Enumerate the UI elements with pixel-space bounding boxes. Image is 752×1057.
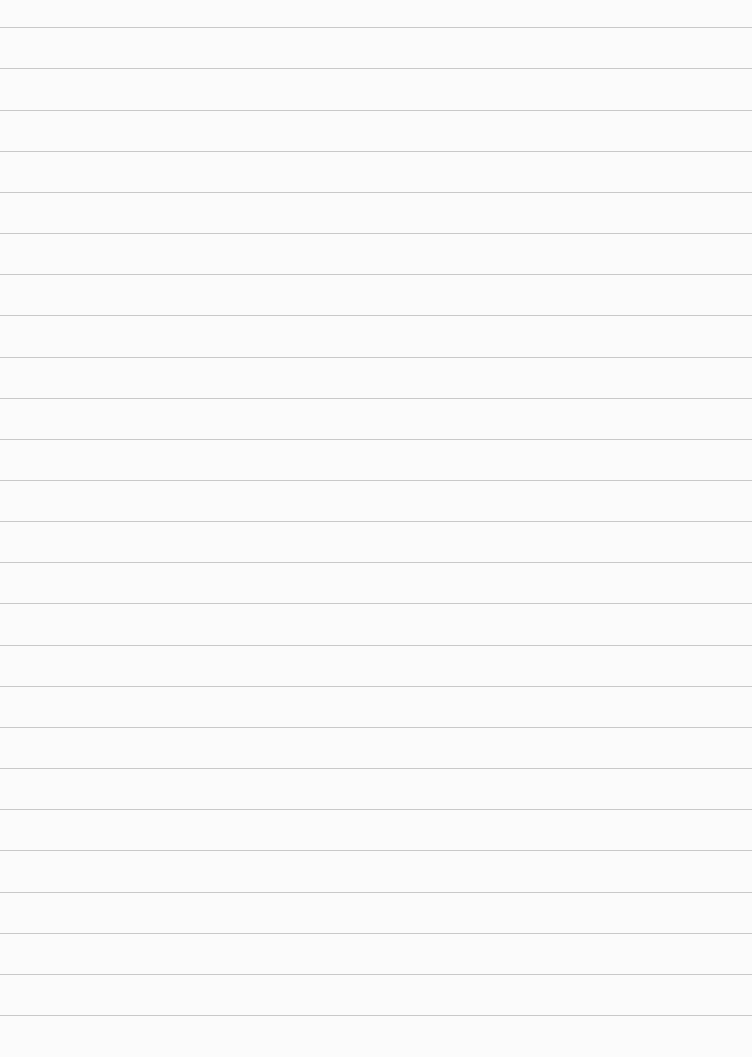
ruled-line — [0, 603, 752, 604]
ruled-line — [0, 686, 752, 687]
ruled-line — [0, 1015, 752, 1016]
ruled-line — [0, 850, 752, 851]
ruled-line — [0, 727, 752, 728]
ruled-line — [0, 151, 752, 152]
ruled-line — [0, 315, 752, 316]
ruled-line — [0, 809, 752, 810]
ruled-line — [0, 27, 752, 28]
ruled-line — [0, 974, 752, 975]
ruled-line — [0, 645, 752, 646]
ruled-line — [0, 521, 752, 522]
ruled-line — [0, 562, 752, 563]
ruled-line — [0, 480, 752, 481]
ruled-line — [0, 192, 752, 193]
lined-paper-sheet — [0, 0, 752, 1057]
ruled-line — [0, 233, 752, 234]
ruled-line — [0, 768, 752, 769]
ruled-line — [0, 398, 752, 399]
ruled-line — [0, 439, 752, 440]
ruled-line — [0, 274, 752, 275]
ruled-line — [0, 110, 752, 111]
ruled-line — [0, 892, 752, 893]
ruled-line — [0, 68, 752, 69]
ruled-line — [0, 357, 752, 358]
ruled-line — [0, 933, 752, 934]
